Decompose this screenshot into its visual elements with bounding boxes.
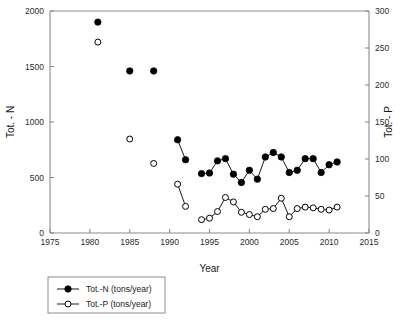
data-point-total-p: [262, 206, 268, 212]
data-point-total-p: [294, 206, 300, 212]
data-point-total-p: [214, 209, 220, 215]
x-tick-label: 1985: [120, 237, 139, 247]
y-tick-label-left: 500: [30, 173, 44, 183]
y-tick-label-right: 50: [375, 191, 385, 201]
y-axis-title-left: Tot. - N: [5, 106, 16, 138]
x-tick-label: 2010: [320, 237, 339, 247]
y-tick-label-right: 300: [375, 6, 389, 16]
data-point-total-n: [246, 167, 252, 173]
data-point-total-p: [238, 209, 244, 215]
y-axis-title-right: Tot. - P: [383, 106, 394, 138]
data-point-total-n: [302, 155, 308, 161]
y-tick-label-left: 1500: [25, 62, 44, 72]
y-tick-label-right: 100: [375, 154, 389, 164]
data-point-total-p: [334, 204, 340, 210]
data-point-total-p: [318, 206, 324, 212]
data-point-total-n: [278, 154, 284, 160]
data-point-total-p: [183, 203, 189, 209]
x-tick-label: 1975: [41, 237, 60, 247]
data-point-total-n: [286, 169, 292, 175]
data-point-total-n: [222, 155, 228, 161]
data-point-total-p: [151, 160, 157, 166]
data-point-total-n: [127, 68, 133, 74]
data-point-total-p: [278, 195, 284, 201]
chart-figure: 1975198019851990199520002005201020150500…: [0, 0, 403, 322]
data-point-total-n: [230, 171, 236, 177]
data-point-total-p: [207, 215, 213, 221]
y-tick-label-left: 2000: [25, 6, 44, 16]
data-point-total-n: [182, 157, 188, 163]
legend-marker-total-p: [65, 301, 71, 307]
x-tick-label: 1995: [200, 237, 219, 247]
data-point-total-p: [127, 136, 133, 142]
data-point-total-n: [270, 149, 276, 155]
data-point-total-n: [334, 159, 340, 165]
y-tick-label-right: 250: [375, 43, 389, 53]
data-point-total-n: [326, 162, 332, 168]
data-point-total-n: [254, 176, 260, 182]
x-tick-label: 1980: [80, 237, 99, 247]
legend-marker-total-n: [65, 286, 71, 292]
x-tick-label: 2000: [240, 237, 259, 247]
legend-label-total-n: Tot.-N (tons/year): [86, 284, 152, 294]
series-line-total-n: [202, 153, 338, 183]
legend-label-total-p: Tot.-P (tons/year): [86, 299, 151, 309]
data-point-total-n: [150, 68, 156, 74]
x-axis-title: Year: [199, 263, 220, 274]
data-point-total-p: [230, 199, 236, 205]
y-tick-label-left: 0: [39, 228, 44, 238]
data-point-total-n: [294, 167, 300, 173]
data-point-total-p: [286, 214, 292, 220]
data-point-total-p: [175, 181, 181, 187]
data-point-total-p: [222, 194, 228, 200]
data-point-total-n: [238, 179, 244, 185]
data-point-total-n: [198, 170, 204, 176]
data-point-total-n: [262, 154, 268, 160]
data-point-total-p: [302, 204, 308, 210]
data-point-total-p: [326, 207, 332, 213]
data-point-total-p: [95, 39, 101, 45]
y-tick-label-right: 0: [375, 228, 380, 238]
data-point-total-p: [199, 217, 205, 223]
data-point-total-n: [174, 137, 180, 143]
data-point-total-n: [206, 170, 212, 176]
y-tick-label-right: 200: [375, 80, 389, 90]
data-point-total-p: [254, 214, 260, 220]
data-point-total-n: [95, 19, 101, 25]
series-line-total-p: [178, 184, 186, 206]
data-point-total-p: [270, 206, 276, 212]
data-point-total-n: [318, 169, 324, 175]
data-point-total-n: [310, 155, 316, 161]
data-point-total-p: [246, 212, 252, 218]
x-tick-label: 2005: [280, 237, 299, 247]
y-tick-label-left: 1000: [25, 117, 44, 127]
x-tick-label: 2015: [360, 237, 379, 247]
x-tick-label: 1990: [160, 237, 179, 247]
data-point-total-n: [214, 158, 220, 164]
series-line-total-p: [202, 197, 338, 219]
total-n-total-p-timeseries-chart: 1975198019851990199520002005201020150500…: [0, 0, 403, 322]
data-point-total-p: [310, 205, 316, 211]
